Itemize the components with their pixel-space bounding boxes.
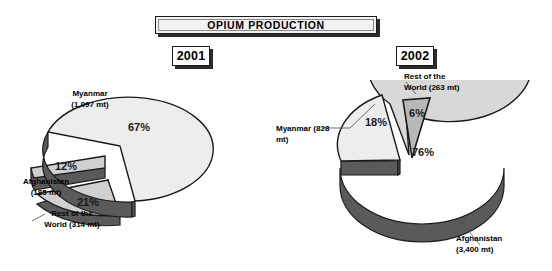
year-badge-2001-frame: 2001 <box>172 46 210 66</box>
pie-2001-pct-myanmar: 67% <box>128 121 150 133</box>
pie-2001-pct-afghanistan: 12% <box>55 160 77 172</box>
pie-2002-pct-afghanistan: 76% <box>412 146 434 158</box>
title-banner-frame: OPIUM PRODUCTION <box>155 16 377 34</box>
label-myanmar-2002: Myanmar (828 mt) <box>276 123 340 145</box>
year-badge-2002: 2002 <box>396 46 434 66</box>
pie-2002-pct-rest-of-world: 6% <box>409 107 425 119</box>
year-badge-2001: 2001 <box>172 46 210 66</box>
pie-2001-slice-myanmar <box>43 97 214 217</box>
chart-title-banner: OPIUM PRODUCTION <box>155 16 377 34</box>
page-title: OPIUM PRODUCTION <box>207 20 325 31</box>
label-rest-of-world-2002: Rest of the World (263 mt) <box>404 71 482 93</box>
label-rest-of-world-2001: Rest of the World (314 mt) <box>28 208 116 230</box>
label-afghanistan-2001: Afghanistan (185 mt) <box>6 176 86 198</box>
year-badge-2002-label: 2002 <box>401 50 430 63</box>
label-myanmar-2001: Myanmar (1,097 mt) <box>47 88 133 110</box>
pie-2002-pct-myanmar: 18% <box>365 116 387 128</box>
label-afghanistan-2002: Afghanistan (3,400 mt) <box>456 233 536 255</box>
year-badge-2002-frame: 2002 <box>396 46 434 66</box>
year-badge-2001-label: 2001 <box>177 50 206 63</box>
